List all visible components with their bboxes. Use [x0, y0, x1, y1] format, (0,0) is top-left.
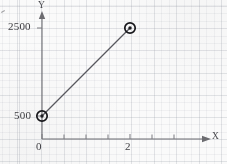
series-segment	[42, 28, 130, 116]
y-axis-arrowhead	[39, 11, 45, 19]
data-point-2-2500	[125, 23, 135, 33]
chart-figure: 2500 500 0 2 Y X	[0, 0, 227, 164]
x-axis-arrowhead	[202, 136, 211, 142]
x-axis-label: X	[212, 131, 219, 141]
y-axis-label: Y	[38, 0, 45, 10]
x-axis-tick-label-0: 0	[36, 140, 42, 152]
plot-area	[0, 0, 227, 164]
y-axis-tick-label-500: 500	[14, 109, 31, 121]
y-axis-tick-label-2500: 2500	[8, 20, 31, 32]
x-axis-tick-label-2: 2	[125, 140, 131, 152]
